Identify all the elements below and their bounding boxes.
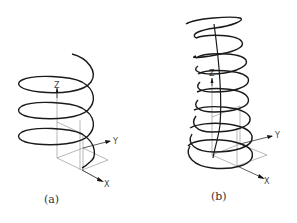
axis-x-a: X [82, 170, 110, 189]
svg-text:Z: Z [54, 81, 60, 90]
axis-x-b: X [237, 166, 270, 186]
diagram-canvas: Z Y X Z [0, 0, 297, 223]
svg-text:Y: Y [274, 131, 280, 140]
axis-y-b: Y [240, 131, 280, 144]
helix-spine-b [213, 24, 221, 158]
caption-b: (b) [211, 190, 227, 203]
axis-z-b: Z [209, 69, 215, 86]
svg-text:X: X [104, 180, 110, 189]
caption-a: (a) [44, 193, 59, 206]
svg-text:Y: Y [112, 137, 118, 146]
svg-text:X: X [264, 177, 270, 186]
figure-b: Z Y X [186, 17, 280, 186]
figure-a: Z Y X [19, 54, 118, 189]
axis-z-a: Z [54, 81, 60, 98]
helix-curve-b [186, 17, 252, 168]
